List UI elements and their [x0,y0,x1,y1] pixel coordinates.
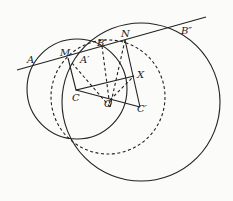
label-X: X [136,69,145,80]
geometry-diagram: A M A′ B′ N B″ X C O C′ [0,0,233,201]
label-N: N [120,28,131,39]
label-M: M [59,47,71,58]
label-B-prime: B′ [96,37,107,48]
label-C: C [72,92,80,103]
label-A-prime: A′ [79,54,90,65]
label-C-prime: C′ [137,103,148,114]
dashed-O-X [110,76,134,100]
dashed-N-O [110,40,125,107]
segment-M-C-X [68,58,134,90]
label-A: A [26,54,34,65]
label-B-double-prime: B″ [180,25,192,36]
label-O: O [104,98,112,109]
small-circle [27,39,127,139]
secant-line [17,17,206,70]
large-circle [62,23,220,181]
